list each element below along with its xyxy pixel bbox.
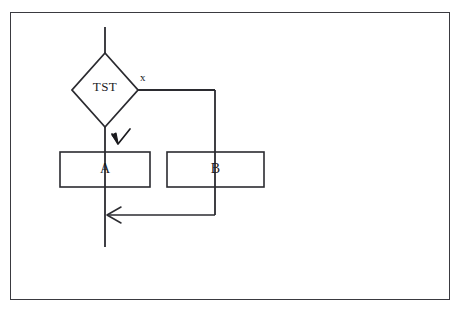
flowchart-canvas (0, 0, 459, 316)
edge-label-x: x (140, 72, 154, 83)
decision-label-tst: TST (75, 80, 135, 93)
diagram-page: TST A B x (0, 0, 459, 316)
process-label-b: B (167, 162, 264, 176)
handdrawn-check-icon (112, 129, 130, 144)
process-label-a: A (60, 162, 150, 176)
